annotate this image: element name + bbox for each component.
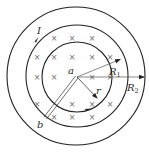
radius-r-label: r bbox=[96, 85, 102, 96]
field-mark-x-icon: × bbox=[69, 100, 76, 109]
field-mark-x-icon: × bbox=[89, 73, 96, 82]
field-mark-x-icon: × bbox=[34, 53, 41, 62]
concentric-circles-magnetic-field-diagram: ××××××××××××××××××× I a b r R1 R2 bbox=[0, 0, 149, 161]
field-mark-x-icon: × bbox=[69, 34, 76, 43]
field-mark-x-icon: × bbox=[107, 100, 114, 109]
field-mark-x-icon: × bbox=[69, 53, 76, 62]
field-mark-x-icon: × bbox=[89, 34, 96, 43]
radius-R2-label: R2 bbox=[126, 82, 139, 95]
field-mark-x-icon: × bbox=[89, 113, 96, 122]
field-mark-x-icon: × bbox=[89, 100, 96, 109]
center-a-label: a bbox=[68, 65, 74, 76]
line-ab-left bbox=[44, 76, 76, 117]
point-b-label: b bbox=[37, 119, 43, 130]
field-mark-x-icon: × bbox=[69, 113, 76, 122]
field-mark-x-icon: × bbox=[51, 53, 58, 62]
outer-circle bbox=[7, 7, 145, 145]
field-mark-x-icon: × bbox=[51, 73, 58, 82]
field-mark-x-icon: × bbox=[34, 73, 41, 82]
field-mark-x-icon: × bbox=[107, 53, 114, 62]
field-mark-x-icon: × bbox=[51, 113, 58, 122]
current-label: I bbox=[36, 25, 42, 36]
magnetic-field-into-page-marks: ××××××××××××××××××× bbox=[34, 34, 114, 122]
field-mark-x-icon: × bbox=[34, 100, 41, 109]
field-mark-x-icon: × bbox=[51, 34, 58, 43]
field-mark-x-icon: × bbox=[89, 53, 96, 62]
current-direction-arrow-icon bbox=[35, 37, 39, 43]
